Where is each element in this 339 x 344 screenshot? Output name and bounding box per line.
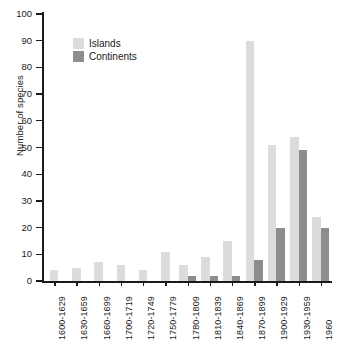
- bar-continents: [299, 150, 308, 281]
- y-tick-label: 60: [6, 116, 32, 126]
- x-tick-mark: [121, 282, 122, 286]
- y-tick-label: 10: [6, 249, 32, 259]
- bar-islands: [161, 252, 170, 281]
- bar-islands: [94, 262, 103, 281]
- bar-continents: [321, 228, 330, 281]
- x-tick-mark: [210, 282, 211, 286]
- x-tick-label: 1810-1839: [214, 296, 223, 340]
- legend-swatch-icon: [73, 51, 84, 62]
- y-tick-label: 90: [6, 36, 32, 46]
- x-tick-mark: [299, 282, 300, 286]
- bar-islands: [268, 145, 277, 281]
- species-extinction-bar-chart: Number of species 0102030405060708090100…: [0, 0, 339, 344]
- x-tick-label: 1960: [325, 320, 334, 340]
- x-tick-label: 1700-1719: [125, 296, 134, 340]
- x-tick-mark: [276, 282, 277, 286]
- legend-swatch-icon: [73, 38, 84, 49]
- bar-continents: [232, 276, 241, 281]
- y-tick-label: 100: [6, 9, 32, 19]
- x-tick-label: 1750-1779: [169, 296, 178, 340]
- x-tick-mark: [76, 282, 77, 286]
- x-tick-mark: [165, 282, 166, 286]
- bar-continents: [276, 228, 285, 281]
- bar-islands: [50, 270, 59, 281]
- y-tick-label: 0: [6, 276, 32, 286]
- y-tick-label: 20: [6, 223, 32, 233]
- bar-islands: [290, 137, 299, 281]
- y-tick-label: 50: [6, 143, 32, 153]
- x-tick-mark: [143, 282, 144, 286]
- x-tick-label: 1870-1899: [258, 296, 267, 340]
- x-tick-mark: [321, 282, 322, 286]
- y-tick-label: 80: [6, 62, 32, 72]
- legend-item: Continents: [73, 50, 137, 63]
- x-tick-label: 1840-1869: [236, 296, 245, 340]
- bar-continents: [254, 260, 263, 281]
- x-tick-label: 1600-1629: [58, 296, 67, 340]
- x-tick-mark: [232, 282, 233, 286]
- x-tick-label: 1930-1959: [303, 296, 312, 340]
- bar-continents: [188, 276, 197, 281]
- x-tick-label: 1780-1809: [192, 296, 201, 340]
- y-tick-label: 30: [6, 196, 32, 206]
- x-tick-label: 1900-1929: [280, 296, 289, 340]
- x-tick-label: 1720-1749: [147, 296, 156, 340]
- legend-label: Continents: [89, 52, 137, 62]
- legend-label: Islands: [89, 39, 121, 49]
- y-tick-label: 70: [6, 89, 32, 99]
- bar-continents: [210, 276, 219, 281]
- x-tick-label: 1660-1699: [103, 296, 112, 340]
- chart-legend: IslandsContinents: [73, 37, 137, 63]
- legend-item: Islands: [73, 37, 137, 50]
- bar-islands: [117, 265, 126, 281]
- bar-islands: [139, 270, 148, 281]
- bar-islands: [179, 265, 188, 281]
- x-tick-label: 1630-1659: [80, 296, 89, 340]
- x-tick-mark: [254, 282, 255, 286]
- bar-islands: [201, 257, 210, 281]
- bar-islands: [312, 217, 321, 281]
- bar-islands: [72, 268, 81, 281]
- bar-islands: [246, 41, 255, 281]
- y-tick-label: 40: [6, 169, 32, 179]
- x-tick-mark: [99, 282, 100, 286]
- x-tick-mark: [54, 282, 55, 286]
- x-tick-mark: [188, 282, 189, 286]
- bar-islands: [223, 241, 232, 281]
